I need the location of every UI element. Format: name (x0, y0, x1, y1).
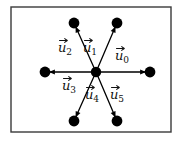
diagram-canvas: u0u1u2u3u4u5 (0, 0, 182, 143)
endpoint-node-u2 (69, 18, 80, 29)
endpoint-node-u0 (145, 67, 156, 78)
central-hub-dot (91, 67, 101, 77)
endpoint-node-u1 (112, 18, 123, 29)
endpoint-node-u5 (112, 116, 123, 127)
endpoint-node-u4 (69, 116, 80, 127)
vector-diagram-figure: u0u1u2u3u4u5 (0, 0, 182, 143)
endpoint-node-u3 (40, 67, 51, 78)
